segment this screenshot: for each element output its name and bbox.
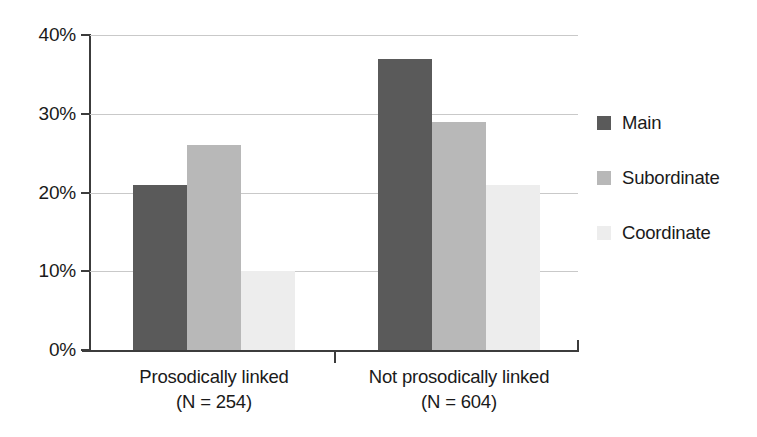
bar-subordinate-0 bbox=[187, 145, 241, 350]
y-axis-tick-label-20: 20% bbox=[4, 183, 76, 202]
y-axis-tick-label-group: 0% bbox=[0, 340, 76, 359]
legend-item-main: Main bbox=[597, 112, 661, 134]
y-axis-tick-label-10: 10% bbox=[4, 261, 76, 280]
y-axis-tick-label-group: 30% bbox=[0, 104, 76, 123]
legend-swatch-main bbox=[597, 116, 611, 130]
y-axis-base-tick bbox=[82, 350, 91, 352]
gridline-40 bbox=[90, 35, 578, 36]
bar-main-1 bbox=[378, 59, 432, 350]
legend-item-subordinate: Subordinate bbox=[597, 167, 720, 189]
bar-subordinate-1 bbox=[432, 122, 486, 350]
bar-chart: 40% 30% 20% 10% 0% Prosodically linked (… bbox=[0, 0, 757, 437]
legend-label-subordinate: Subordinate bbox=[622, 167, 720, 189]
bar-main-0 bbox=[133, 185, 187, 350]
y-axis-tick-label-group: 20% bbox=[0, 183, 76, 202]
plot-area bbox=[90, 35, 578, 350]
category-count-text: (N = 604) bbox=[309, 389, 609, 414]
x-axis-group-divider-tick bbox=[334, 350, 336, 363]
y-axis-tick-label-30: 30% bbox=[4, 104, 76, 123]
legend-swatch-coordinate bbox=[597, 226, 611, 240]
legend-label-main: Main bbox=[622, 112, 661, 134]
category-label-text: Prosodically linked bbox=[139, 366, 288, 387]
legend-item-coordinate: Coordinate bbox=[597, 222, 711, 244]
bar-coordinate-0 bbox=[241, 271, 295, 350]
y-axis-tick-label-40: 40% bbox=[4, 25, 76, 44]
legend-label-coordinate: Coordinate bbox=[622, 222, 711, 244]
legend-swatch-subordinate bbox=[597, 171, 611, 185]
y-axis-tick-label-group: 10% bbox=[0, 261, 76, 280]
x-axis-category-label-1: Not prosodically linked (N = 604) bbox=[309, 364, 609, 414]
gridline-30 bbox=[90, 114, 578, 115]
category-label-text: Not prosodically linked bbox=[369, 366, 550, 387]
bar-coordinate-1 bbox=[486, 185, 540, 350]
y-axis-tick-label-group: 40% bbox=[0, 25, 76, 44]
y-axis-tick-label-0: 0% bbox=[4, 340, 76, 359]
